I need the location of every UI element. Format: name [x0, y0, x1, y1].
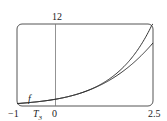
y-max-label: 12 [52, 12, 62, 22]
t3-label: T3 [33, 109, 42, 121]
curve-t3 [17, 43, 153, 104]
plot-area [0, 0, 167, 121]
x-min-label: −1 [8, 109, 19, 119]
x-max-label: 2.5 [148, 109, 161, 119]
plot-frame [17, 24, 153, 106]
t3-label-sub: 3 [39, 114, 43, 121]
x-zero-label: 0 [52, 109, 57, 119]
f-label: f [28, 94, 31, 104]
